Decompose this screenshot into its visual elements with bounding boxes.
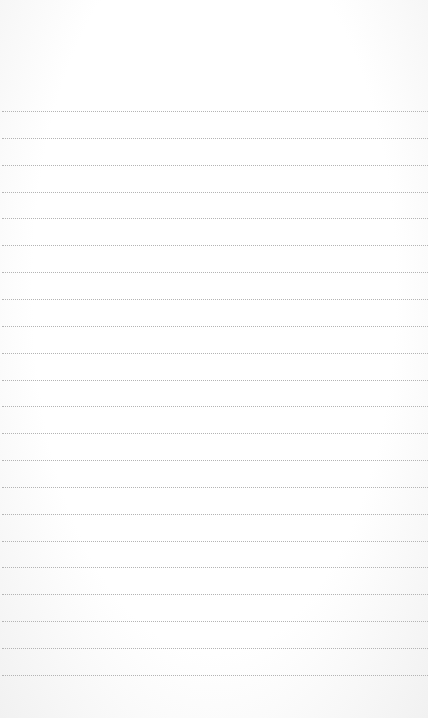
ruled-line	[2, 299, 428, 300]
ruled-line	[2, 487, 428, 488]
ruled-line	[2, 380, 428, 381]
ruled-line	[2, 621, 428, 622]
ruled-line	[2, 111, 428, 112]
ruled-line	[2, 648, 428, 649]
ruled-line	[2, 594, 428, 595]
ruled-line	[2, 138, 428, 139]
ruled-line	[2, 406, 428, 407]
ruled-line	[2, 218, 428, 219]
ruled-line	[2, 326, 428, 327]
ruled-line	[2, 567, 428, 568]
ruled-line	[2, 192, 428, 193]
ruled-line	[2, 433, 428, 434]
ruled-line	[2, 541, 428, 542]
ruled-line	[2, 353, 428, 354]
ruled-line	[2, 514, 428, 515]
ruled-line	[2, 460, 428, 461]
ruled-line	[2, 675, 428, 676]
lined-note-paper	[0, 0, 428, 718]
ruled-line	[2, 245, 428, 246]
ruled-line	[2, 272, 428, 273]
ruled-line	[2, 165, 428, 166]
